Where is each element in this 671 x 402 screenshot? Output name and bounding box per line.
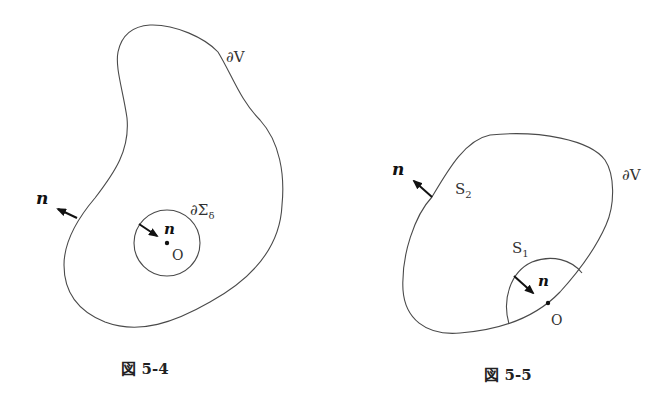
outer-normal-arrow xyxy=(58,209,77,218)
figure-caption: 図 5-4 xyxy=(121,360,168,378)
inner-normal-label: n xyxy=(164,220,175,238)
s1-label: S1 xyxy=(512,239,529,259)
inner-normal-label: n xyxy=(538,272,549,290)
figure-5-4: n ∂V n O ∂Σδ 図 5-4 xyxy=(36,25,283,378)
boundary-label: ∂V xyxy=(226,48,246,66)
region-boundary-curve xyxy=(64,25,283,327)
s2-label: S2 xyxy=(455,180,472,200)
origin-point xyxy=(546,301,550,305)
outer-normal-arrow xyxy=(414,181,432,197)
region-boundary-ellipse xyxy=(403,134,613,334)
outer-normal-label: n xyxy=(392,159,404,179)
origin-label: O xyxy=(172,247,183,263)
figure-caption: 図 5-5 xyxy=(484,366,531,384)
inner-normal-arrow xyxy=(139,224,157,236)
figure-5-5: n S2 ∂V S1 n O 図 5-5 xyxy=(392,134,642,384)
inner-boundary-label: ∂Σδ xyxy=(190,201,214,221)
boundary-label: ∂V xyxy=(622,166,642,184)
inner-normal-arrow xyxy=(514,276,533,293)
origin-label: O xyxy=(551,312,562,328)
outer-normal-label: n xyxy=(36,188,48,208)
origin-point xyxy=(165,241,169,245)
half-sphere-arc xyxy=(507,258,582,324)
